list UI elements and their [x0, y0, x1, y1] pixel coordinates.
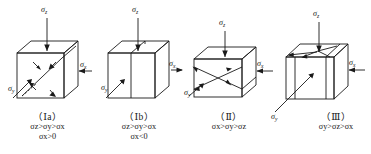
panel-2: σz σx σy （Ⅱ） σx>σy>σz — [183, 0, 275, 154]
sigma-z-arrowhead — [222, 51, 228, 58]
sigma-y-arrow-shaft — [275, 74, 313, 112]
sigma-y-arrow-shaft — [13, 80, 31, 98]
cube-right-face — [334, 44, 348, 99]
panel-2-relation: σx>σy>σz — [183, 123, 275, 132]
shear-arrowhead-right-upper — [226, 68, 232, 72]
panel-1b-label: （Ⅰb） — [93, 112, 185, 122]
shear-arrow-4-head — [49, 92, 56, 97]
cube-right-face — [242, 47, 256, 97]
sigma-x-label: σx — [257, 59, 263, 68]
panel-1a-label: （Ⅰa） — [0, 112, 95, 122]
top-converge-arrowhead-2 — [301, 54, 307, 58]
panel-1a: σz σx σy （Ⅰa） σz>σy>σx σx>0 — [0, 0, 95, 154]
cube-right-face — [155, 41, 169, 98]
panel-3-caption: （Ⅲ） σy>σz>σx — [273, 112, 371, 133]
sigma-z-label: σz — [219, 18, 225, 27]
sigma-y-label: σy — [184, 88, 190, 97]
sigma-x-label: σx — [349, 58, 355, 67]
panel-1b-condition: σx<0 — [93, 133, 185, 142]
failure-plane-top — [62, 46, 76, 58]
sigma-z-label: σz — [313, 9, 319, 18]
cube-right-face — [64, 41, 78, 98]
panel-1b-caption: （Ⅰb） σz>σy>σx σx<0 — [93, 112, 185, 141]
stress-state-figure: σz σx σy （Ⅰa） σz>σy>σx σx>0 — [0, 0, 371, 154]
panel-1b-relation: σz>σy>σx — [93, 123, 185, 132]
sigma-y-label: σy — [8, 84, 14, 93]
cube-front-face — [286, 57, 334, 99]
sigma-y-arrow-shaft — [106, 80, 124, 98]
panel-2-caption: （Ⅱ） σx>σy>σz — [183, 112, 275, 133]
panel-2-label: （Ⅱ） — [183, 112, 275, 122]
panel-1a-caption: （Ⅰa） σz>σy>σx σx>0 — [0, 112, 95, 141]
sigma-z-label: σz — [132, 5, 138, 14]
panel-3-relation: σy>σz>σx — [287, 123, 371, 132]
panel-1a-relation: σz>σy>σx — [0, 123, 95, 132]
sigma-z-label: σz — [41, 5, 47, 14]
panel-3-label: （Ⅲ） — [287, 112, 371, 122]
sigma-y-label: σy — [101, 83, 107, 92]
shear-arrowhead-right-lower — [226, 80, 232, 86]
sigma-x-arrowhead — [257, 68, 264, 73]
panel-3: σz σx σy （Ⅲ） σy>σz>σx — [273, 0, 371, 154]
sigma-z-arrowhead — [44, 45, 50, 52]
panel-1b: σz σx σy （Ⅰb） σz>σy>σx σx<0 — [93, 0, 185, 154]
top-converge-arrow-4 — [318, 51, 330, 57]
panel-1a-condition: σx>0 — [0, 133, 95, 142]
cube-front-face — [108, 53, 155, 98]
sigma-x-label: σx — [169, 59, 175, 68]
split-plane-top-trace — [326, 44, 340, 57]
sigma-x-label: σx — [80, 60, 86, 69]
cube-front-face — [17, 53, 64, 98]
sigma-x-arrowhead — [349, 67, 356, 72]
panel-3-drawing — [273, 0, 371, 125]
